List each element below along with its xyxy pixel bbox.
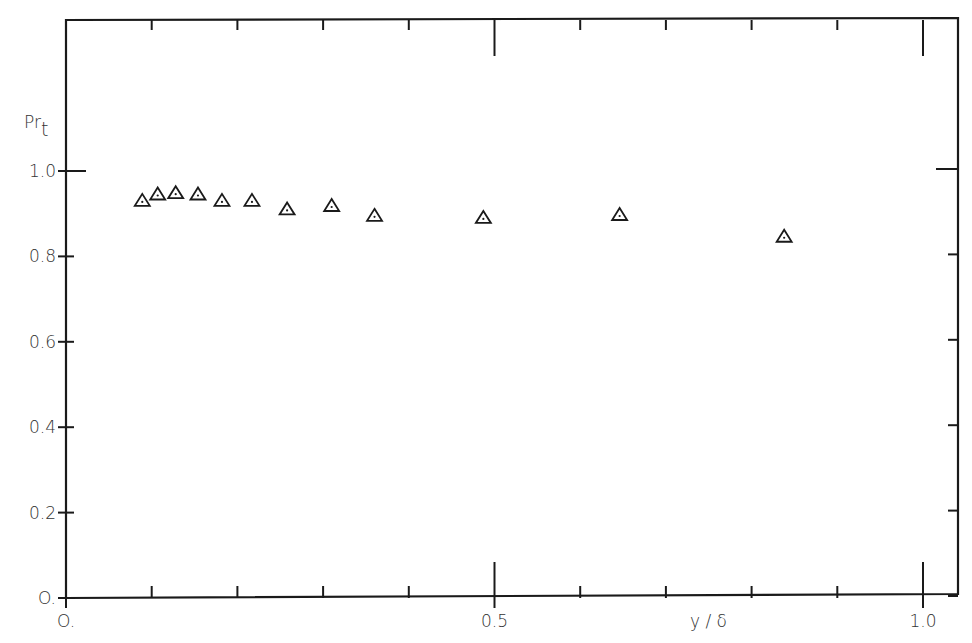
svg-text:1.0: 1.0 [29,161,56,181]
svg-text:O.: O. [57,611,75,631]
data-point [476,211,491,223]
x-axis-label: y / δ [690,611,727,631]
svg-text:0.2: 0.2 [29,503,56,523]
data-point [190,187,205,199]
tick-labels: O.0.51.0O.0.20.40.60.81.0 [29,161,937,631]
axis-ticks [58,20,958,608]
svg-text:O.: O. [38,588,56,608]
svg-text:0.8: 0.8 [29,246,56,266]
svg-text:0.4: 0.4 [29,417,56,437]
svg-text:0.6: 0.6 [29,332,56,352]
data-points [135,186,792,242]
data-point [168,186,183,198]
y-axis-label: Prt [24,112,48,140]
data-point [612,208,627,220]
svg-text:1.0: 1.0 [909,611,936,631]
data-point [150,187,165,199]
data-point [214,194,229,206]
plot-frame [66,18,958,598]
data-point [135,194,150,206]
data-point [777,230,792,242]
data-point [244,194,259,206]
data-point [367,209,382,221]
data-point [324,199,339,211]
chart: O.0.51.0O.0.20.40.60.81.0 Prt y / δ [0,0,972,643]
data-point [280,202,295,214]
svg-text:0.5: 0.5 [481,611,508,631]
